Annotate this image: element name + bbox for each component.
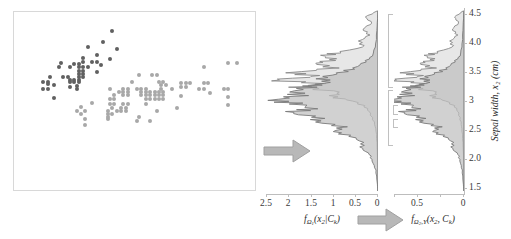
density-area bbox=[394, 11, 464, 191]
scatter-point bbox=[175, 106, 179, 110]
range-bracket-upper bbox=[388, 14, 389, 88]
right-tick bbox=[417, 194, 418, 197]
scatter-point bbox=[79, 112, 83, 116]
middle-tick-label: 2.5 bbox=[255, 198, 277, 208]
scatter-panel bbox=[13, 11, 256, 191]
scatter-point bbox=[75, 87, 79, 91]
y-tick bbox=[464, 159, 467, 160]
scatter-point bbox=[48, 75, 52, 79]
scatter-point bbox=[68, 85, 72, 89]
scatter-point bbox=[124, 109, 128, 113]
scatter-point bbox=[41, 80, 45, 84]
middle-density-panel: 2.5 2 1.5 1 0.5 0 fΩ1(x2|Ck) bbox=[266, 8, 378, 194]
right-tick-label: 0.5 bbox=[406, 198, 428, 208]
right-density-panel: 0.5 0 fΩ2,Υ(x2, Ck) bbox=[394, 8, 464, 194]
scatter-point bbox=[202, 87, 206, 91]
middle-tick bbox=[333, 194, 334, 197]
scatter-point bbox=[86, 45, 90, 49]
right-tick-labels: 0.5 0 bbox=[386, 198, 472, 212]
middle-tick bbox=[377, 194, 378, 197]
scatter-point bbox=[101, 40, 105, 44]
scatter-point bbox=[61, 75, 65, 79]
scatter-point bbox=[95, 53, 99, 57]
scatter-point bbox=[95, 60, 99, 64]
y-axis-label-container: Sepal width, x₂ (cm) bbox=[486, 8, 502, 194]
middle-tick bbox=[266, 194, 267, 197]
right-x-axis-line bbox=[394, 194, 464, 195]
scatter-point bbox=[119, 109, 123, 113]
right-tick bbox=[394, 194, 395, 197]
scatter-point bbox=[75, 109, 79, 113]
right-density-plot bbox=[394, 8, 464, 194]
middle-tick bbox=[311, 194, 312, 197]
scatter-point bbox=[79, 105, 83, 109]
middle-density-plot bbox=[266, 8, 378, 194]
middle-tick bbox=[288, 194, 289, 197]
y-tick bbox=[464, 188, 467, 189]
y-tick bbox=[464, 101, 467, 102]
middle-tick-label: 2 bbox=[277, 198, 299, 208]
middle-tick-label: 0.5 bbox=[344, 198, 366, 208]
scatter-point bbox=[184, 85, 188, 89]
scatter-point bbox=[164, 83, 168, 87]
scatter-point bbox=[222, 87, 226, 91]
scatter-point bbox=[144, 102, 148, 106]
scatter-point bbox=[108, 102, 112, 106]
right-tick-label: 0 bbox=[452, 198, 474, 208]
scatter-point bbox=[46, 87, 50, 91]
right-tick bbox=[440, 194, 441, 197]
scatter-point bbox=[46, 82, 50, 86]
scatter-point bbox=[135, 119, 139, 123]
scatter-point bbox=[135, 87, 139, 91]
scatter-point bbox=[68, 80, 72, 84]
scatter-point bbox=[126, 102, 130, 106]
middle-tick-label: 1 bbox=[322, 198, 344, 208]
middle-x-axis-line bbox=[266, 194, 378, 195]
y-axis-label: Sepal width, x₂ (cm) bbox=[489, 61, 500, 142]
density-area bbox=[268, 11, 378, 191]
scatter-point bbox=[206, 81, 210, 85]
scatter-point bbox=[226, 103, 230, 107]
middle-tick-label: 1.5 bbox=[300, 198, 322, 208]
scatter-point bbox=[95, 70, 99, 74]
scatter-point bbox=[202, 81, 206, 85]
scatter-point bbox=[155, 73, 159, 77]
scatter-point bbox=[121, 102, 125, 106]
range-bracket-lower bbox=[388, 90, 389, 146]
middle-tick-label: 0 bbox=[366, 198, 388, 208]
y-tick bbox=[464, 130, 467, 131]
scatter-point bbox=[137, 73, 141, 77]
scatter-point bbox=[106, 117, 110, 121]
scatter-point bbox=[110, 106, 114, 110]
figure-root: 2.5 2 1.5 1 0.5 0 fΩ1(x2|Ck) 0.5 0 fΩ2,Υ… bbox=[0, 0, 511, 239]
scatter-point bbox=[90, 101, 94, 105]
scatter-point bbox=[115, 109, 119, 113]
y-tick bbox=[464, 43, 467, 44]
right-x-axis-label: fΩ2,Υ(x2, Ck) bbox=[390, 214, 476, 226]
scatter-plot-frame bbox=[13, 11, 256, 191]
scatter-point bbox=[81, 75, 85, 79]
y-tick bbox=[464, 72, 467, 73]
y-tick bbox=[464, 14, 467, 15]
scatter-point bbox=[155, 109, 159, 113]
middle-tick bbox=[355, 194, 356, 197]
